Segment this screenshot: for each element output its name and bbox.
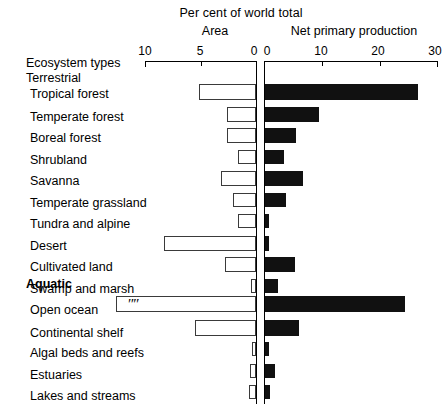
category-label-temperate-forest: Temperate forest <box>30 110 124 124</box>
area-bar-tropical-forest <box>199 84 256 100</box>
npp-bar-savanna <box>265 171 303 186</box>
left-tick-0: 0 <box>251 44 258 58</box>
area-bar-temperate-grassland <box>233 193 256 207</box>
right-axis-tick-20 <box>380 61 381 66</box>
category-label-estuaries: Estuaries <box>30 368 82 382</box>
npp-bar-swamp-and-marsh <box>265 279 278 293</box>
area-bar-lakes-and-streams <box>249 385 256 399</box>
right-axis-tick-30 <box>437 61 438 67</box>
left-axis-tick-5 <box>201 61 202 66</box>
right-tick-30: 30 <box>428 44 441 58</box>
left-axis-tick-10 <box>145 61 146 67</box>
right-tick-10: 10 <box>314 44 327 58</box>
npp-bar-lakes-and-streams <box>265 385 270 399</box>
area-bar-shrubland <box>238 150 256 164</box>
chart-title-text: Per cent of world total <box>179 6 302 20</box>
npp-bar-tundra-and-alpine <box>265 214 269 228</box>
area-bar-temperate-forest <box>227 107 256 122</box>
npp-bar-open-ocean <box>265 296 405 312</box>
area-bar-tundra-and-alpine <box>238 214 256 228</box>
npp-bar-shrubland <box>265 150 284 164</box>
category-label-tundra-and-alpine: Tundra and alpine <box>30 217 130 231</box>
left-tick-10: 10 <box>138 44 151 58</box>
category-label-tropical-forest: Tropical forest <box>30 87 109 101</box>
right-tick-0: 0 <box>264 44 271 58</box>
category-label-continental-shelf: Continental shelf <box>30 326 123 340</box>
category-label-algal-beds-and-reefs: Algal beds and reefs <box>30 346 144 360</box>
category-label-desert: Desert <box>30 239 67 253</box>
npp-bar-temperate-forest <box>265 107 319 122</box>
right-axis-tick-10 <box>322 61 323 66</box>
area-bar-swamp-and-marsh <box>251 279 256 293</box>
left-axis-title: Area <box>175 24 255 38</box>
category-label-shrubland: Shrubland <box>30 153 87 167</box>
left-tick-5: 5 <box>197 44 204 58</box>
npp-bar-temperate-grassland <box>265 193 286 207</box>
ecosystem-types-header: Ecosystem types <box>26 56 120 70</box>
group-heading-terrestrial: Terrestrial <box>26 71 81 85</box>
category-label-swamp-and-marsh: Swamp and marsh <box>30 282 134 296</box>
category-label-lakes-and-streams: Lakes and streams <box>30 389 136 403</box>
npp-bar-desert <box>265 236 269 251</box>
npp-bar-tropical-forest <box>265 84 418 100</box>
area-bar-cultivated-land <box>225 257 256 272</box>
npp-bar-continental-shelf <box>265 320 299 336</box>
npp-bar-cultivated-land <box>265 257 295 272</box>
area-bar-desert <box>164 236 256 251</box>
area-bar-boreal-forest <box>227 128 256 143</box>
right-axis-title: Net primary production <box>262 24 446 38</box>
npp-bar-algal-beds-and-reefs <box>265 342 269 356</box>
category-label-open-ocean: Open ocean <box>30 303 98 317</box>
category-label-cultivated-land: Cultivated land <box>30 260 113 274</box>
right-tick-20: 20 <box>371 44 384 58</box>
area-bar-algal-beds-and-reefs <box>252 342 256 356</box>
ecosystem-pyramid-chart: Per cent of world total Area Net primary… <box>0 0 446 404</box>
npp-bar-estuaries <box>265 364 275 378</box>
chart-title: Per cent of world total <box>0 6 446 20</box>
area-bar-savanna <box>221 171 256 186</box>
left-center-spine <box>256 61 257 404</box>
area-bar-continental-shelf <box>195 320 256 336</box>
right-axis-line <box>264 61 438 62</box>
category-label-savanna: Savanna <box>30 174 79 188</box>
npp-bar-boreal-forest <box>265 128 296 143</box>
category-label-temperate-grassland: Temperate grassland <box>30 196 147 210</box>
category-label-boreal-forest: Boreal forest <box>30 131 101 145</box>
area-bar-estuaries <box>250 364 256 378</box>
axis-break-icon: ″″ <box>128 297 139 311</box>
